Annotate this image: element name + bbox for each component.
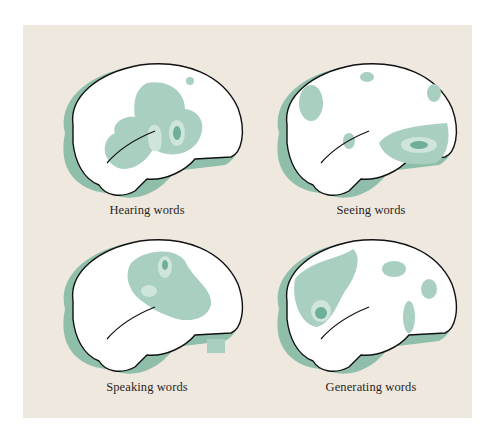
panel-generating-words: Generating words (259, 239, 483, 435)
label-seeing-words: Seeing words (259, 203, 483, 218)
panel-seeing-words: Seeing words (259, 53, 483, 249)
brain-diagram-seeing (259, 53, 483, 213)
brain-diagram-generating (259, 239, 483, 399)
panel-speaking-words: Speaking words (35, 239, 259, 435)
figure-panel: Hearing words Seeing words (23, 25, 472, 418)
panel-hearing-words: Hearing words (35, 53, 259, 249)
label-generating-words: Generating words (259, 380, 483, 395)
brain-diagram-hearing (35, 53, 259, 213)
label-speaking-words: Speaking words (35, 380, 259, 395)
brain-diagram-speaking (35, 239, 259, 399)
label-hearing-words: Hearing words (35, 203, 259, 218)
